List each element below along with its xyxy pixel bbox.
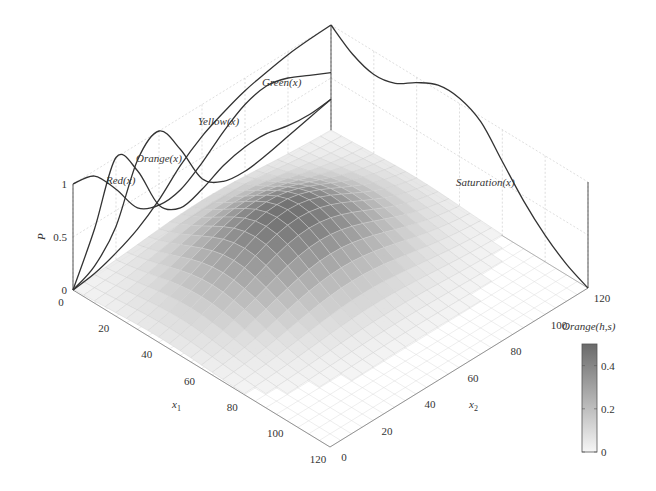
- svg-text:60: 60: [184, 375, 196, 387]
- svg-text:0: 0: [62, 284, 68, 296]
- svg-text:0: 0: [341, 451, 347, 463]
- svg-text:0: 0: [58, 296, 64, 308]
- svg-text:0.4: 0.4: [601, 360, 615, 372]
- svg-text:20: 20: [382, 425, 394, 437]
- svg-text:40: 40: [141, 348, 153, 360]
- svg-text:1: 1: [62, 178, 68, 190]
- curve-label-green: Green(x): [262, 76, 302, 89]
- colorbar-gradient: [582, 344, 597, 452]
- svg-text:80: 80: [227, 401, 239, 413]
- x1-axis-label: x1: [171, 398, 181, 413]
- svg-text:100: 100: [267, 427, 284, 439]
- svg-text:20: 20: [98, 322, 110, 334]
- svg-text:80: 80: [511, 345, 523, 357]
- colorbar-title: Orange(h,s): [562, 320, 616, 333]
- svg-text:0: 0: [601, 446, 607, 458]
- svg-text:120: 120: [310, 453, 327, 465]
- curve-label-red: Red(x): [105, 174, 136, 187]
- svg-text:0.2: 0.2: [601, 403, 615, 415]
- svg-text:60: 60: [468, 372, 480, 384]
- surface-chart: 02040608010012002040608010012000.51 Red(…: [0, 0, 656, 491]
- svg-text:120: 120: [594, 292, 611, 304]
- p-axis-label: P: [35, 233, 47, 241]
- x2-axis-label: x2: [468, 398, 478, 413]
- svg-text:40: 40: [425, 398, 437, 410]
- colorbar: Orange(h,s) 00.20.4: [562, 320, 616, 458]
- curve-label-saturation: Saturation(x): [456, 176, 515, 189]
- svg-text:0.5: 0.5: [53, 231, 67, 243]
- curve-label-orange: Orange(x): [136, 152, 182, 165]
- curve-label-yellow: Yellow(x): [198, 115, 239, 128]
